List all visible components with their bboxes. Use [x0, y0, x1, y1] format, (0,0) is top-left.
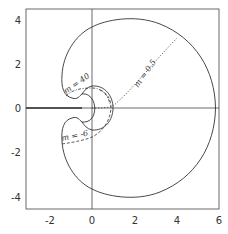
x-tick-label: 6	[216, 215, 222, 226]
y-tick-label: -4	[11, 192, 21, 203]
x-tick-label: 2	[132, 215, 138, 226]
label-m-0.5: m = 0.5	[132, 58, 158, 89]
curve-m-0.5	[92, 38, 177, 108]
plot-frame	[26, 9, 219, 209]
x-tick-label: -2	[45, 215, 55, 226]
y-tick-label: 4	[15, 15, 21, 26]
y-tick-label: 2	[15, 59, 21, 70]
x-tick-label: 0	[89, 215, 95, 226]
label-m-neg6: m = -6	[61, 129, 89, 143]
x-tick-label: 4	[174, 215, 180, 226]
label-m-40: m = 40	[62, 71, 91, 95]
y-tick-label: -2	[11, 147, 21, 158]
chart: m = 40 m = 0.5 m = -6 -2 0 2 4 6 4 2 0 -…	[0, 0, 228, 234]
y-tick-label: 0	[15, 103, 21, 114]
